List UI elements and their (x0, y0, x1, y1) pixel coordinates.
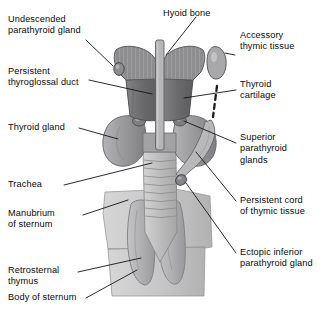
label-body-of-sternum: Body of sternum (8, 292, 76, 303)
label-thyroid-gland: Thyroid gland (8, 122, 65, 133)
accessory-thymic-tissue-shape (207, 47, 226, 79)
leader-undescended-parathyroid (86, 40, 113, 66)
leader-trachea (64, 163, 152, 185)
label-undescended-parathyroid-gland: Undescended parathyroid gland (8, 14, 81, 37)
label-ectopic-inferior-parathyroid-gland: Ectopic inferior parathyroid gland (240, 247, 313, 270)
label-hyoid-bone: Hyoid bone (163, 8, 210, 19)
label-persistent-cord-of-thymic-tissue: Persistent cord of thymic tissue (240, 195, 305, 218)
label-persistent-thyroglossal-duct: Persistent thyroglossal duct (8, 66, 79, 89)
persistent-thyroglossal-duct-shape (156, 40, 165, 150)
label-trachea: Trachea (8, 179, 42, 190)
label-superior-parathyroid-glands: Superior parathyroid glands (240, 132, 287, 166)
undescended-parathyroid-gland-shape (114, 63, 124, 76)
label-manubrium-of-sternum: Manubrium of sternum (8, 208, 55, 231)
anatomy-diagram: Undescended parathyroid gland Persistent… (0, 0, 324, 319)
leader-accessory-thymic-tissue (225, 53, 235, 55)
leader-persistent-cord (196, 152, 236, 201)
label-thyroid-cartilage: Thyroid cartilage (240, 79, 276, 102)
label-retrosternal-thymus: Retrosternal thymus (8, 265, 59, 288)
label-accessory-thymic-tissue: Accessory thymic tissue (240, 30, 294, 53)
